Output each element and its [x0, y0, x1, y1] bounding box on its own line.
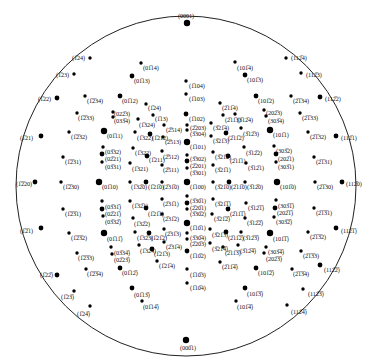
pole-label: (1̅2̅3̅4) [87, 270, 103, 277]
pole-dot [130, 286, 135, 291]
pole-label: (03̅31) [105, 163, 121, 170]
pole-label: (1̅32̅2) [134, 220, 150, 227]
pole-label: (3̅21̅4) [213, 124, 229, 131]
pole-dot [88, 56, 91, 59]
pole-label: (2̅514) [166, 126, 182, 133]
pole-label: (303̅2̅) [276, 218, 292, 225]
pole-label: (101̅2̅) [258, 269, 274, 276]
pole-dot [334, 226, 339, 231]
pole-label: (2̅11̅4̅) [222, 263, 238, 270]
pole-dot [185, 128, 188, 131]
pole-label: (3̅12̅3) [243, 130, 259, 137]
pole-dot [185, 281, 188, 284]
pole-label: (2̅1̅32) [310, 133, 326, 140]
pole-label: (1̅10̅3) [190, 271, 206, 278]
pole-label: (1̅2̅3̅3) [78, 254, 94, 261]
pole-label: (2̅31̅0) [163, 183, 179, 190]
pole-label: (112̅2̅) [324, 266, 340, 273]
pole-dot [100, 160, 103, 163]
pole-label: (1̅100) [190, 183, 206, 190]
pole-label: (202̅3̅) [266, 255, 282, 262]
pole-label: (101̅1) [273, 131, 289, 138]
pole-label: (112̅0) [346, 180, 362, 187]
pole-label: (112̅1̅) [341, 227, 357, 234]
pole-dot [299, 71, 302, 74]
pole-label: (1̅2̅32) [71, 133, 87, 140]
pole-label: (2̅31̅2) [163, 215, 179, 222]
pole-dot [185, 123, 188, 126]
pole-label: (01̅12̅) [122, 269, 138, 276]
pole-label: (022̅3) [114, 110, 130, 117]
pole-dot [285, 303, 288, 306]
pole-label: (2̅11̅4) [222, 104, 238, 111]
pole-label: (02̅21̅) [105, 210, 121, 217]
pole-label: (303̅4̅) [268, 248, 284, 255]
pole-label: (2̅11̅0) [231, 183, 247, 190]
pole-label: (202̅3) [266, 109, 282, 116]
pole-label: (3̅12̅3̅) [243, 234, 259, 241]
pole-label: (03̅32̅) [105, 218, 121, 225]
pole-label: (1̅2̅31) [65, 158, 81, 165]
pole-label: (2̅1̅3̅1) [316, 209, 332, 216]
pole-label: (2̅31̅3) [165, 230, 181, 237]
pole-label: (1̅2̅1) [20, 227, 33, 234]
pole-dot [301, 287, 304, 290]
pole-dot [100, 199, 103, 202]
pole-dot [88, 304, 91, 307]
pole-label: (02̅23̅) [114, 256, 130, 263]
pole-label: (1̅2̅20) [16, 180, 32, 187]
pole-dot [340, 180, 345, 185]
pole-label: (2̅1̅34) [293, 97, 309, 104]
pole-label: (202̅1) [278, 155, 294, 162]
pole-label: (1̅324) [139, 121, 155, 128]
pole-label: (1̅322) [135, 149, 151, 156]
pole-label: (1̅21̅0) [148, 183, 164, 190]
pole-dot [55, 273, 60, 278]
pole-label: (3̅21̅2̅) [214, 215, 230, 222]
pole-label: (112̅4̅) [291, 308, 307, 315]
pole-label: (2̅1̅30) [317, 183, 333, 190]
pole-label: (0001) [178, 12, 194, 19]
pole-label: (202̅1̅) [277, 209, 293, 216]
pole-label: (1̅21̅1) [148, 210, 164, 217]
pole-dot [185, 249, 190, 254]
pole-dot [184, 79, 187, 82]
pole-label: (1̅10̅1) [190, 224, 206, 231]
pole-label: (3̅21̅1̅) [215, 200, 231, 207]
pole-label: (303̅1) [278, 163, 294, 170]
pole-label: (1̅21) [20, 134, 33, 141]
pole-label: (1̅10̅4) [190, 284, 206, 291]
pole-dot [185, 231, 188, 234]
pole-dot [185, 201, 190, 206]
pole-label: (2̅11̅2̅) [228, 234, 244, 241]
pole-label: (101̅1̅) [273, 235, 289, 242]
pole-label: (3̅21̅2) [215, 153, 231, 160]
pole-label: (1̅10̅2) [190, 252, 206, 259]
pole-label: (3̅30̅1) [190, 197, 206, 204]
pole-dot [72, 72, 75, 75]
pole-label: (1̅32̅0) [131, 183, 147, 190]
pole-dot [284, 56, 287, 59]
pole-label: (3̅21̅3̅) [212, 231, 228, 238]
pole-dot [185, 194, 188, 197]
pole-label: (1̅101) [190, 143, 206, 150]
pole-label: (3̅12̅1) [248, 164, 264, 171]
pole-label: (2̅512) [163, 153, 179, 160]
pole-label: (3̅12̅0) [247, 183, 263, 190]
pole-label: (3̅302) [190, 155, 206, 162]
pole-label: (2̅31̅1) [163, 200, 179, 207]
pole-label: (112̅3) [306, 71, 322, 78]
pole-label: (2̅1̅3̅4) [293, 270, 309, 277]
pole-label: (1̅103) [189, 95, 205, 102]
pole-label: (1̅32̅1) [132, 202, 148, 209]
pole-label: (1̅24̅) [77, 310, 90, 317]
pole-label: (3̅304) [190, 130, 206, 137]
pole-label: (01̅11) [107, 132, 122, 139]
pole-label: (2̅20̅3) [190, 240, 206, 247]
pole-dot [185, 159, 190, 164]
pole-label: (3̅21̅0) [215, 183, 231, 190]
projection-circle-canvas [0, 0, 372, 357]
pole-label: (01̅12) [122, 97, 138, 104]
pole-dot [185, 237, 188, 240]
stereographic-projection: (0001)(000̅1)(1̅24)(1̅23)(1̅22)(1̅21)(1̅… [0, 0, 372, 357]
